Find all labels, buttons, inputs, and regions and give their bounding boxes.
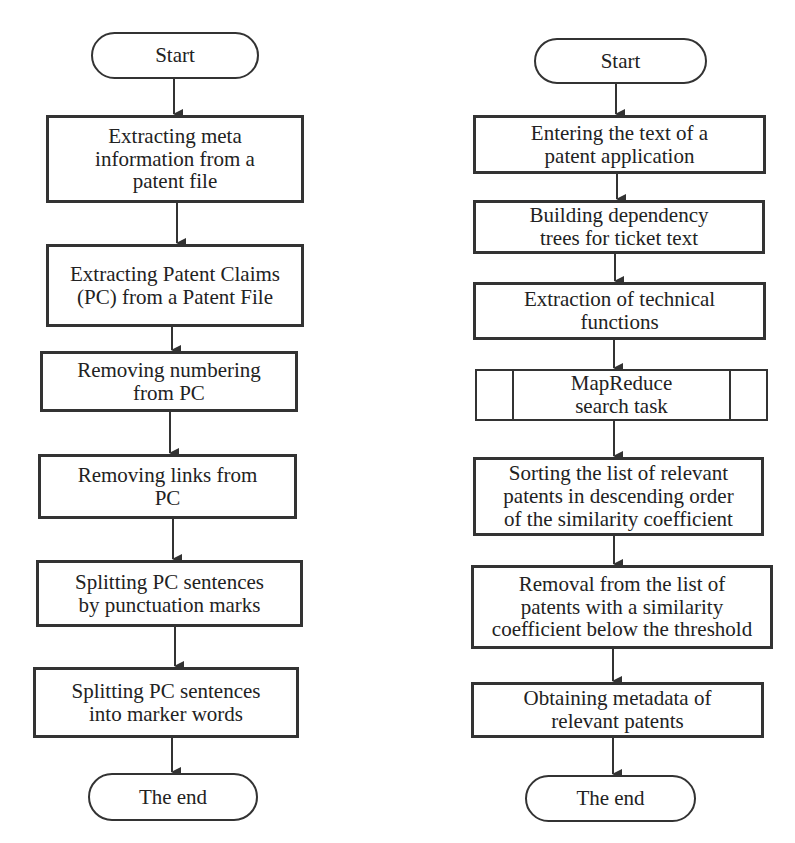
node-label: Removal from the list of patents with a …	[490, 573, 754, 641]
node-label: Removing numbering from PC	[75, 359, 263, 404]
process-split-marker-words: Splitting PC sentences into marker words	[33, 667, 299, 738]
node-label: Building dependency trees for ticket tex…	[527, 204, 710, 249]
process-extract-claims: Extracting Patent Claims (PC) from a Pat…	[46, 244, 304, 327]
end-terminal: The end	[88, 773, 258, 821]
node-label: Splitting PC sentences by punctuation ma…	[73, 571, 266, 616]
node-label: Removing links from PC	[76, 464, 260, 509]
process-enter-text: Entering the text of a patent applicatio…	[473, 115, 766, 174]
predefined-bar-left	[512, 371, 514, 419]
process-obtain-metadata: Obtaining metadata of relevant patents	[471, 682, 764, 738]
predefined-process-mapreduce: MapReduce search task	[475, 369, 768, 421]
process-extract-functions: Extraction of technical functions	[473, 282, 766, 340]
process-remove-links: Removing links from PC	[38, 454, 297, 519]
process-split-punctuation: Splitting PC sentences by punctuation ma…	[36, 560, 303, 627]
process-extract-meta: Extracting meta information from a paten…	[46, 115, 304, 203]
node-label: Entering the text of a patent applicatio…	[529, 122, 710, 167]
process-remove-below-threshold: Removal from the list of patents with a …	[471, 565, 773, 649]
node-label: Start	[153, 44, 197, 67]
start-terminal: Start	[91, 32, 259, 79]
start-terminal: Start	[534, 38, 707, 84]
process-build-trees: Building dependency trees for ticket tex…	[473, 200, 765, 254]
predefined-bar-right	[729, 371, 731, 419]
node-label: Extraction of technical functions	[522, 288, 717, 333]
node-label: Sorting the list of relevant patents in …	[501, 462, 735, 530]
node-label: The end	[137, 786, 209, 809]
end-terminal: The end	[525, 775, 696, 822]
node-label: Splitting PC sentences into marker words	[70, 680, 263, 725]
process-remove-numbering: Removing numbering from PC	[40, 351, 298, 412]
node-label: Start	[599, 50, 643, 73]
node-label: Obtaining metadata of relevant patents	[522, 687, 714, 732]
node-label: MapReduce search task	[569, 372, 674, 417]
node-label: Extracting meta information from a paten…	[93, 125, 257, 193]
node-label: The end	[574, 787, 646, 810]
process-sort-list: Sorting the list of relevant patents in …	[473, 457, 764, 536]
node-label: Extracting Patent Claims (PC) from a Pat…	[68, 263, 282, 308]
